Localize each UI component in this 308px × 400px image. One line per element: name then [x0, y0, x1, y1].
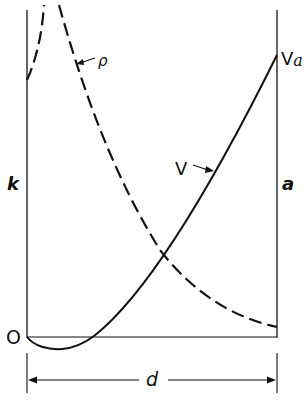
v-a-label-main: V	[281, 48, 294, 69]
origin-label: O	[6, 326, 21, 348]
rho-label: ρ	[98, 52, 108, 70]
v-label: V	[175, 158, 188, 179]
rho-curve-right-branch	[59, 5, 277, 327]
diagram-canvas: ρ Va V k a O d	[0, 0, 308, 400]
rho-curve-left-branch	[27, 5, 44, 80]
dimension-arrowhead-right	[267, 377, 276, 384]
a-label: a	[282, 173, 294, 194]
dimension-arrowhead-left	[28, 377, 37, 384]
d-label: d	[146, 368, 159, 390]
potential-curve-v	[27, 55, 277, 349]
v-pointer-arrowhead	[205, 166, 214, 173]
v-a-label: Va	[281, 48, 303, 70]
v-a-label-subscript: a	[293, 51, 303, 70]
k-label: k	[7, 173, 20, 194]
